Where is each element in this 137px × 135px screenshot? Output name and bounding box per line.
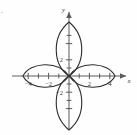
y-tick-label-2: 2 [60,56,63,63]
y-axis-arrowhead [66,12,72,18]
rose-curve-figure: . [0,0,137,135]
polar-rose-plot: −4 −2 2 4 2 −2 x y [0,0,137,135]
x-tick-label--4: −4 [25,80,33,87]
x-tick-label-2: 2 [88,80,91,87]
x-tick-label--2: −2 [45,80,52,87]
x-axis-arrowhead [120,73,126,79]
axes-group [12,12,126,130]
y-tick-label--2: −2 [56,89,63,96]
y-axis-label: y [61,6,66,14]
x-axis-label: x [126,77,131,85]
